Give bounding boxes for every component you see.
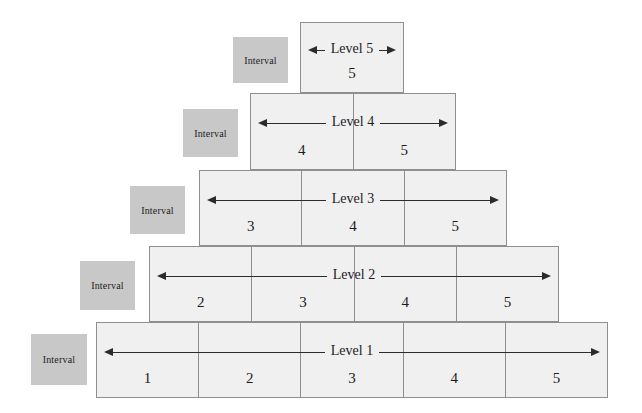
cell-level-1-3: 3 bbox=[300, 322, 403, 398]
cell-value: 5 bbox=[301, 66, 403, 81]
cell-level-2-4: 5 bbox=[456, 246, 559, 322]
cell-level-2-3: 4 bbox=[354, 246, 457, 322]
interval-label-text: Interval bbox=[194, 128, 227, 139]
cell-value: 3 bbox=[301, 371, 402, 386]
row-level-4: 45Level 4 bbox=[250, 93, 456, 170]
interval-label-text: Interval bbox=[244, 55, 277, 66]
row-level-5: 5Level 5 bbox=[300, 22, 404, 93]
cell-value: 5 bbox=[457, 295, 558, 310]
interval-label-level-1: Interval bbox=[31, 334, 87, 385]
cell-value: 2 bbox=[199, 371, 300, 386]
cell-level-3-3: 5 bbox=[404, 170, 507, 246]
cell-level-5-1: 5 bbox=[300, 22, 404, 93]
interval-label-level-4: Interval bbox=[183, 109, 238, 157]
interval-label-text: Interval bbox=[43, 354, 76, 365]
cell-level-1-5: 5 bbox=[505, 322, 608, 398]
cell-level-4-1: 4 bbox=[250, 93, 354, 170]
interval-label-level-5: Interval bbox=[233, 37, 288, 83]
cell-value: 3 bbox=[252, 295, 353, 310]
cell-value: 4 bbox=[251, 143, 353, 158]
cell-level-4-2: 5 bbox=[353, 93, 457, 170]
cell-value: 3 bbox=[200, 219, 301, 234]
cell-value: 4 bbox=[355, 295, 456, 310]
row-level-1: 12345Level 1 bbox=[96, 322, 608, 398]
cell-level-2-1: 2 bbox=[149, 246, 252, 322]
cell-value: 5 bbox=[506, 371, 607, 386]
interval-label-level-2: Interval bbox=[80, 261, 135, 310]
cell-value: 4 bbox=[404, 371, 505, 386]
interval-pyramid-diagram: Interval5Level 5Interval45Level 4Interva… bbox=[0, 0, 642, 413]
interval-label-text: Interval bbox=[91, 280, 124, 291]
row-level-2: 2345Level 2 bbox=[149, 246, 559, 322]
cell-value: 1 bbox=[97, 371, 198, 386]
cell-value: 5 bbox=[405, 219, 506, 234]
cell-level-1-1: 1 bbox=[96, 322, 199, 398]
cell-level-2-2: 3 bbox=[251, 246, 354, 322]
row-level-3: 345Level 3 bbox=[199, 170, 507, 246]
cell-value: 4 bbox=[302, 219, 403, 234]
cell-level-3-1: 3 bbox=[199, 170, 302, 246]
cell-value: 2 bbox=[150, 295, 251, 310]
cell-level-3-2: 4 bbox=[301, 170, 404, 246]
cell-level-1-2: 2 bbox=[198, 322, 301, 398]
interval-label-level-3: Interval bbox=[130, 186, 185, 234]
cell-value: 5 bbox=[354, 143, 456, 158]
interval-label-text: Interval bbox=[141, 205, 174, 216]
cell-level-1-4: 4 bbox=[403, 322, 506, 398]
